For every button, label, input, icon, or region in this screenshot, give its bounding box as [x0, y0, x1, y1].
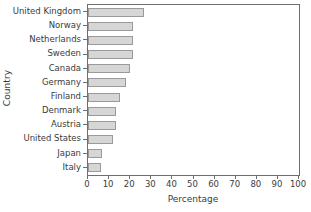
x-axis-title: Percentage [87, 194, 299, 204]
bar-row [88, 90, 299, 104]
y-tick-label: Sweden [12, 47, 84, 61]
x-tick-label: 80 [250, 180, 261, 189]
bar-row [88, 33, 299, 47]
bar-row [88, 48, 299, 62]
x-tick-label: 60 [208, 180, 219, 189]
x-axis-tick-labels: 0102030405060708090100 [87, 180, 299, 192]
bar [88, 36, 133, 45]
bar [88, 8, 144, 17]
y-axis-tick-labels: United Kingdom Norway Netherlands Sweden… [12, 4, 84, 174]
bar [88, 149, 102, 158]
x-tick-label: 10 [103, 180, 114, 189]
y-tick-label: Italy [12, 160, 84, 174]
y-tick-label: United Kingdom [12, 4, 84, 18]
bar [88, 121, 116, 130]
bar [88, 107, 116, 116]
x-tick-label: 20 [124, 180, 135, 189]
bar [88, 135, 113, 144]
y-tick-label: Norway [12, 18, 84, 32]
y-tick-label: United States [12, 132, 84, 146]
y-tick-label: Denmark [12, 103, 84, 117]
bar-row [88, 147, 299, 161]
x-tick-label: 30 [145, 180, 156, 189]
bar-row [88, 161, 299, 175]
bar-chart: Country United Kingdom Norway Netherland… [0, 0, 311, 212]
x-tick-label: 90 [271, 180, 282, 189]
bar [88, 22, 133, 31]
plot-area [87, 4, 300, 176]
x-tick-label: 40 [166, 180, 177, 189]
bar [88, 78, 126, 87]
y-tick-label: Germany [12, 75, 84, 89]
bar [88, 64, 130, 73]
x-tick-label: 50 [187, 180, 198, 189]
y-tick-label: Finland [12, 89, 84, 103]
bar [88, 50, 133, 59]
bar-row [88, 62, 299, 76]
bar-series [88, 5, 299, 175]
bar [88, 93, 120, 102]
bar-row [88, 104, 299, 118]
y-axis-title-text: Country [2, 70, 12, 106]
bar-row [88, 5, 299, 19]
bar [88, 163, 101, 172]
bar-row [88, 19, 299, 33]
y-tick-label: Austria [12, 117, 84, 131]
bar-row [88, 133, 299, 147]
bar-row [88, 118, 299, 132]
x-tick-label: 100 [290, 180, 306, 189]
y-tick-label: Canada [12, 61, 84, 75]
y-tick-label: Japan [12, 146, 84, 160]
x-tick-label: 70 [229, 180, 240, 189]
x-tick-label: 0 [84, 180, 89, 189]
y-tick-label: Netherlands [12, 32, 84, 46]
bar-row [88, 76, 299, 90]
